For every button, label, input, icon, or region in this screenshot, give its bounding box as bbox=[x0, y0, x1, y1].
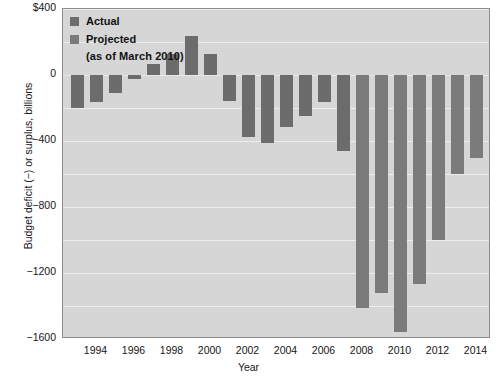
x-axis-tick-label: 2014 bbox=[456, 344, 496, 356]
legend-note: (as of March 2010) bbox=[86, 50, 184, 62]
y-axis-tick-label: $400 bbox=[0, 1, 56, 13]
y-axis-title: Budget deficit (−) or surplus, billions bbox=[22, 46, 34, 286]
legend-label-projected: Projected bbox=[86, 33, 136, 45]
x-axis-tick-label: 2002 bbox=[228, 344, 268, 356]
x-axis-tick-label: 1994 bbox=[76, 344, 116, 356]
x-axis-tick-label: 2010 bbox=[380, 344, 420, 356]
y-axis-tick-label: −1600 bbox=[0, 331, 56, 343]
x-axis-tick-label: 1998 bbox=[152, 344, 192, 356]
x-axis-tick-label: 1996 bbox=[114, 344, 154, 356]
x-axis-title: Year bbox=[0, 361, 497, 373]
legend-swatch-actual bbox=[70, 17, 79, 26]
legend-swatch-projected bbox=[70, 35, 79, 44]
x-axis-tick-label: 2000 bbox=[190, 344, 230, 356]
x-axis-tick-label: 2004 bbox=[266, 344, 306, 356]
x-axis-tick-label: 2012 bbox=[418, 344, 458, 356]
budget-deficit-chart: $4000−400−800−1200−1600 1994199619982000… bbox=[0, 0, 497, 383]
legend-item-actual: Actual bbox=[70, 14, 184, 28]
legend-item-projected: Projected bbox=[70, 32, 184, 46]
x-axis-tick-label: 2006 bbox=[304, 344, 344, 356]
x-axis-tick-label: 2008 bbox=[342, 344, 382, 356]
legend-label-actual: Actual bbox=[86, 15, 120, 27]
legend: Actual Projected (as of March 2010) bbox=[70, 14, 184, 62]
